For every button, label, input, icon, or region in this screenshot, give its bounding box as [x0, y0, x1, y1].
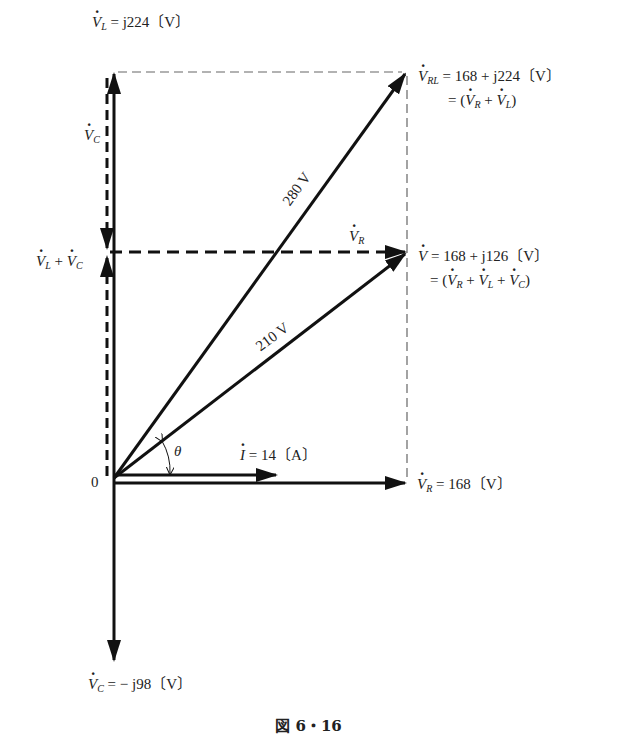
label-VR-mid: VR: [349, 228, 364, 246]
label-VRL-sum: = (VR + VL): [448, 92, 516, 110]
label-I: I = 14〔A〕: [240, 443, 317, 464]
label-V-sum: = (VR + VL + VC): [430, 272, 530, 290]
figure-caption: 図 6・16: [0, 714, 617, 735]
label-VL: VL = j224〔V〕: [92, 10, 190, 32]
label-VRL: VRL = 168 + j224〔V〕: [418, 64, 561, 86]
phasor-diagram: [0, 0, 617, 744]
label-VR: VR = 168〔V〕: [417, 472, 512, 494]
label-VL-plus-VC: VL + VC: [36, 253, 83, 271]
label-VC: VC = − j98〔V〕: [88, 672, 192, 694]
label-theta: θ: [174, 443, 181, 460]
label-VC-side: VC: [84, 127, 100, 145]
phasor-VRL: [114, 74, 405, 478]
angle-theta-arc: [162, 441, 170, 474]
label-origin: 0: [91, 474, 99, 491]
